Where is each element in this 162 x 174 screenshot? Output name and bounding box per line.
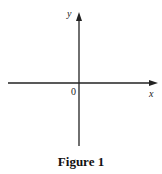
x-axis-arrow-icon	[149, 80, 158, 86]
y-axis-arrow-icon	[76, 12, 82, 21]
x-axis-label: x	[149, 89, 153, 99]
axes-svg	[0, 0, 162, 150]
figure-caption: Figure 1	[0, 155, 162, 168]
origin-label: 0	[71, 87, 76, 97]
y-axis-label: y	[67, 9, 71, 19]
